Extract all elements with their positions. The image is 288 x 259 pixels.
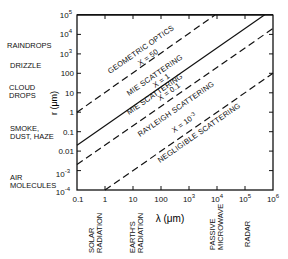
svg-text:MOLECULES: MOLECULES	[10, 181, 56, 190]
bottom-category-labels: SOLAR RADIATION EARTH'S RADIATION PASSIV…	[87, 204, 252, 253]
svg-text:0.1: 0.1	[72, 195, 84, 204]
x-axis-label: λ (μm)	[156, 213, 185, 224]
svg-text:106: 106	[267, 193, 280, 204]
svg-text:DRIZZLE: DRIZZLE	[10, 61, 41, 70]
svg-text:0.01: 0.01	[58, 147, 74, 156]
svg-text:10-3: 10-3	[56, 168, 71, 179]
plot-frame	[77, 15, 273, 190]
svg-text:103: 103	[60, 48, 73, 59]
svg-text:10: 10	[129, 195, 138, 204]
svg-text:104: 104	[211, 193, 224, 204]
svg-text:100: 100	[154, 195, 168, 204]
svg-text:RADAR: RADAR	[243, 220, 252, 247]
svg-text:104: 104	[60, 28, 73, 39]
svg-text:100: 100	[61, 69, 75, 78]
svg-text:MICROWAVE: MICROWAVE	[216, 204, 225, 250]
svg-text:0.1: 0.1	[63, 128, 75, 137]
svg-text:105: 105	[60, 9, 73, 20]
svg-text:1: 1	[103, 195, 108, 204]
svg-text:RAINDROPS: RAINDROPS	[7, 41, 52, 50]
x-ticks	[105, 15, 245, 190]
x-tick-labels: 0.1 1 10 100 103 104 105 106	[72, 193, 279, 204]
svg-text:103: 103	[183, 193, 196, 204]
svg-text:105: 105	[239, 193, 252, 204]
chart-svg: 105 104 103 100 10 1 0.1 0.01 10-3 10-4 …	[0, 0, 288, 259]
svg-text:10: 10	[65, 89, 74, 98]
svg-text:1: 1	[70, 108, 75, 117]
svg-text:RADIATION: RADIATION	[136, 213, 145, 253]
svg-text:DROPS: DROPS	[9, 91, 36, 100]
svg-text:10-4: 10-4	[56, 186, 71, 197]
svg-text:DUST, HAZE: DUST, HAZE	[10, 132, 54, 141]
svg-text:RADIATION: RADIATION	[95, 213, 104, 253]
y-axis-label: r (μm)	[49, 91, 59, 115]
